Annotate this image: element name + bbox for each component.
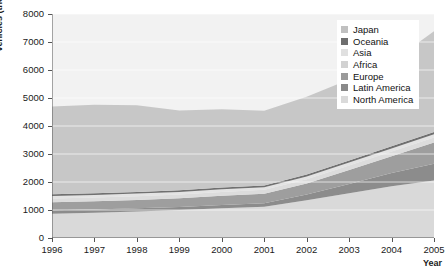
legend-item[interactable]: North America: [341, 94, 413, 106]
x-axis-tick-label: 2001: [244, 244, 284, 255]
x-axis-tick-label: 1998: [117, 244, 157, 255]
legend-item[interactable]: Oceania: [341, 36, 413, 48]
x-axis-tick-label: 2002: [287, 244, 327, 255]
legend-label: Latin America: [353, 82, 411, 93]
x-axis-tick-mark: [307, 238, 308, 242]
stacked-area-chart: Vehicles (thousands) Year 01000200030004…: [0, 0, 448, 273]
x-axis-tick-label: 2004: [372, 244, 412, 255]
legend-label: Japan: [353, 24, 379, 35]
legend-item[interactable]: Europe: [341, 70, 413, 82]
legend-label: Oceania: [353, 36, 388, 47]
x-axis-tick-mark: [349, 238, 350, 242]
y-axis-tick-label: 7000: [0, 37, 44, 47]
y-axis-tick-label: 4000: [0, 121, 44, 131]
legend-label: Africa: [353, 59, 377, 70]
legend-swatch-icon: [341, 26, 348, 33]
x-axis-tick-mark: [94, 238, 95, 242]
x-axis-tick-mark: [179, 238, 180, 242]
legend-label: Europe: [353, 71, 384, 82]
x-axis-tick-mark: [392, 238, 393, 242]
legend-swatch-icon: [341, 38, 348, 45]
x-axis-tick-mark: [222, 238, 223, 242]
x-axis-title: Year: [423, 258, 442, 268]
legend-item[interactable]: Africa: [341, 59, 413, 71]
x-axis-tick-label: 2003: [329, 244, 369, 255]
x-axis-tick-label: 2000: [202, 244, 242, 255]
legend-swatch-icon: [341, 73, 348, 80]
y-axis-tick-label: 5000: [0, 93, 44, 103]
chart-legend: JapanOceaniaAsiaAfricaEuropeLatin Americ…: [337, 20, 419, 109]
legend-swatch-icon: [341, 96, 348, 103]
y-axis-tick-label: 1000: [0, 205, 44, 215]
y-axis-tick-label: 3000: [0, 149, 44, 159]
legend-swatch-icon: [341, 49, 348, 56]
y-axis-tick-label: 0: [0, 233, 44, 243]
x-axis-tick-label: 2005: [414, 244, 448, 255]
y-axis-tick-label: 8000: [0, 9, 44, 19]
legend-item[interactable]: Japan: [341, 24, 413, 36]
x-axis-tick-mark: [434, 238, 435, 242]
x-axis-tick-mark: [52, 238, 53, 242]
y-axis-tick-label: 6000: [0, 65, 44, 75]
x-axis-tick-label: 1996: [32, 244, 72, 255]
x-axis-tick-mark: [264, 238, 265, 242]
legend-swatch-icon: [341, 84, 348, 91]
x-axis-tick-mark: [137, 238, 138, 242]
legend-label: Asia: [353, 47, 371, 58]
legend-label: North America: [353, 94, 413, 105]
x-axis-tick-label: 1999: [159, 244, 199, 255]
legend-swatch-icon: [341, 61, 348, 68]
y-axis-tick-label: 2000: [0, 177, 44, 187]
legend-item[interactable]: Asia: [341, 47, 413, 59]
x-axis-tick-label: 1997: [74, 244, 114, 255]
legend-item[interactable]: Latin America: [341, 82, 413, 94]
